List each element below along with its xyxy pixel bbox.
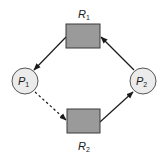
diagram-svg: R1 R2 P1 P2 <box>0 0 161 162</box>
resource-r1-box <box>66 24 100 48</box>
resource-r2-box <box>67 109 100 133</box>
edge-r2-to-p2 <box>100 92 133 122</box>
resource-r1: R1 <box>66 8 100 48</box>
resource-r1-label: R1 <box>78 8 90 21</box>
process-p1: P1 <box>12 68 38 94</box>
resource-allocation-graph: R1 R2 P1 P2 <box>0 0 161 162</box>
edge-p2-to-r1 <box>101 37 134 70</box>
resource-r2-label: R2 <box>78 140 90 153</box>
resource-r2: R2 <box>67 109 100 153</box>
edge-p1-to-r2-dashed <box>35 92 66 120</box>
edge-r1-to-p1 <box>34 37 66 70</box>
process-p2: P2 <box>130 68 156 94</box>
